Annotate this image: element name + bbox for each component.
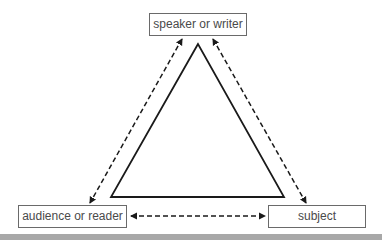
edge-speaker-subject	[213, 39, 306, 203]
node-label: subject	[298, 209, 336, 223]
center-triangle	[111, 44, 284, 197]
node-label: speaker or writer	[153, 17, 242, 31]
rhetorical-triangle-diagram: speaker or writer audience or reader sub…	[0, 0, 382, 242]
node-speaker-or-writer: speaker or writer	[149, 13, 247, 36]
node-audience-or-reader: audience or reader	[18, 205, 127, 228]
edge-speaker-audience	[90, 39, 182, 203]
node-subject: subject	[268, 205, 366, 228]
node-label: audience or reader	[22, 209, 123, 223]
bottom-divider-bar	[0, 234, 382, 240]
